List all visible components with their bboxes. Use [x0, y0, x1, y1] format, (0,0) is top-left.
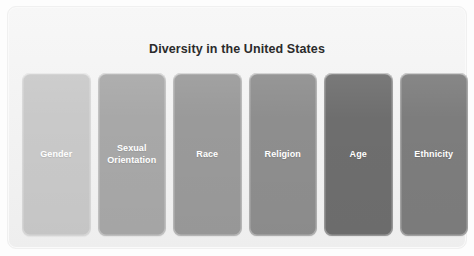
diversity-card-gender[interactable]: Gender — [22, 73, 91, 236]
diversity-panel: Diversity in the United States Gender Se… — [7, 6, 467, 249]
diversity-card-label: Age — [346, 149, 371, 161]
diversity-card-label: Ethnicity — [410, 149, 457, 161]
diversity-card-label: Race — [192, 149, 222, 161]
diversity-card-label: Sexual Orientation — [103, 143, 160, 166]
diversity-card-label: Gender — [36, 149, 76, 161]
diversity-card-race[interactable]: Race — [173, 73, 242, 236]
diversity-card-sexual-orientation[interactable]: Sexual Orientation — [98, 73, 167, 236]
diversity-card-label: Religion — [261, 149, 305, 161]
diversity-card-row: Gender Sexual Orientation Race Religion … — [22, 73, 468, 236]
diversity-card-religion[interactable]: Religion — [249, 73, 318, 236]
diversity-card-ethnicity[interactable]: Ethnicity — [400, 73, 469, 236]
diversity-card-age[interactable]: Age — [324, 73, 393, 236]
page-title: Diversity in the United States — [8, 41, 466, 57]
